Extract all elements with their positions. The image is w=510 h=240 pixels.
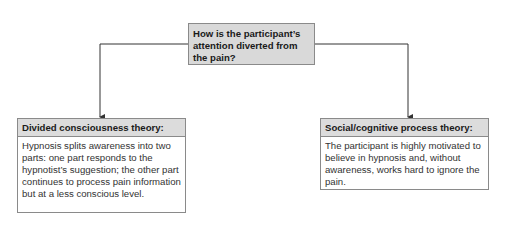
- theory-title: Divided consciousness theory:: [18, 119, 185, 137]
- right-connector-arrow: [315, 44, 408, 117]
- theory-title: Social/cognitive process theory:: [321, 119, 488, 137]
- social-cognitive-process-theory-box: Social/cognitive process theory: The par…: [320, 118, 489, 190]
- question-box: How is the participant’s attention diver…: [188, 23, 315, 65]
- left-connector-arrow: [100, 44, 188, 117]
- divided-consciousness-theory-box: Divided consciousness theory: Hypnosis s…: [17, 118, 186, 213]
- theory-description: Hypnosis splits awareness into two parts…: [18, 137, 185, 203]
- question-text: How is the participant’s attention diver…: [193, 28, 300, 63]
- theory-description: The participant is highly motivated to b…: [321, 137, 488, 191]
